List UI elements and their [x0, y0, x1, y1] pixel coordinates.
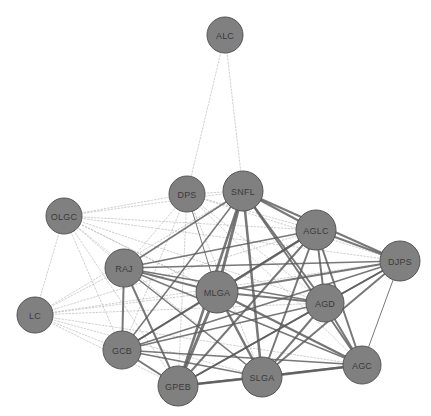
node-circle[interactable]	[105, 249, 143, 287]
graph-edge	[225, 35, 243, 191]
node-circle[interactable]	[158, 366, 198, 406]
node-circle[interactable]	[196, 271, 238, 313]
graph-edge	[64, 216, 325, 303]
network-graph-svg: ALCDPSSNFLOLGCAGLCDJPSRAJMLGAAGDLCGCBAGC…	[0, 0, 431, 416]
node-circle[interactable]	[103, 331, 141, 369]
graph-node-aglc[interactable]: AGLC	[296, 210, 336, 250]
node-circle[interactable]	[306, 284, 344, 322]
node-circle[interactable]	[169, 176, 205, 212]
node-circle[interactable]	[380, 241, 420, 281]
graph-node-mlga[interactable]: MLGA	[196, 271, 238, 313]
graph-node-agd[interactable]: AGD	[306, 284, 344, 322]
graph-edge	[187, 194, 400, 261]
network-graph-canvas: ALCDPSSNFLOLGCAGLCDJPSRAJMLGAAGDLCGCBAGC…	[0, 0, 431, 416]
node-circle[interactable]	[242, 357, 282, 397]
graph-node-gcb[interactable]: GCB	[103, 331, 141, 369]
node-circle[interactable]	[17, 297, 53, 333]
graph-edge	[64, 194, 187, 216]
graph-node-raj[interactable]: RAJ	[105, 249, 143, 287]
graph-node-slga[interactable]: SLGA	[242, 357, 282, 397]
graph-node-dps[interactable]: DPS	[169, 176, 205, 212]
edge-layer	[35, 35, 400, 386]
node-circle[interactable]	[207, 17, 243, 53]
graph-node-agc[interactable]: AGC	[343, 346, 381, 384]
graph-node-alc[interactable]: ALC	[207, 17, 243, 53]
node-circle[interactable]	[296, 210, 336, 250]
graph-edge	[187, 35, 225, 194]
node-circle[interactable]	[223, 171, 263, 211]
graph-node-snfl[interactable]: SNFL	[223, 171, 263, 211]
graph-node-olgc[interactable]: OLGC	[46, 198, 82, 234]
graph-node-lc[interactable]: LC	[17, 297, 53, 333]
node-circle[interactable]	[46, 198, 82, 234]
graph-node-djps[interactable]: DJPS	[380, 241, 420, 281]
node-layer: ALCDPSSNFLOLGCAGLCDJPSRAJMLGAAGDLCGCBAGC…	[17, 17, 420, 406]
node-circle[interactable]	[343, 346, 381, 384]
graph-node-gpeb[interactable]: GPEB	[158, 366, 198, 406]
graph-edge	[35, 230, 316, 315]
